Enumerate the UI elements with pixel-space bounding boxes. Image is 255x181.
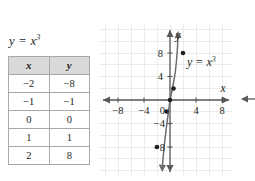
arrow-up-icon: [166, 30, 173, 37]
data-point: [181, 51, 186, 56]
svg-text:y = x3: y = x3: [186, 55, 216, 69]
cell-x: 2: [9, 147, 50, 165]
x-axis-label: x: [219, 82, 226, 94]
arrow-left-icon: [103, 96, 110, 103]
table-row: −2 −8: [9, 75, 90, 93]
cell-x: −1: [9, 93, 50, 111]
table-row: 0 0: [9, 111, 90, 129]
equation-label: y = x3: [9, 33, 41, 49]
cell-y: −1: [49, 93, 90, 111]
equation-exponent: 3: [36, 33, 40, 42]
x-tick-label: 8: [219, 105, 224, 116]
y-tick-label: 8: [158, 48, 163, 59]
arrow-left-icon: [241, 95, 248, 102]
coordinate-graph: −8 −4 4 8 8 4 −4 −8 0 x y y = x3: [99, 24, 233, 176]
table-row: −1 −1: [9, 93, 90, 111]
y-tick-label: −4: [154, 118, 166, 129]
cell-x: 0: [9, 111, 50, 129]
cell-y: −8: [49, 75, 90, 93]
x-tick-label: −8: [112, 105, 123, 116]
x-axis: [103, 96, 229, 103]
table-header-y: y: [49, 57, 90, 75]
data-point: [171, 86, 176, 91]
table-row: 2 8: [9, 147, 90, 165]
graph-svg: −8 −4 4 8 8 4 −4 −8 0 x y y = x3: [99, 24, 233, 176]
y-tick-label: 4: [158, 71, 164, 82]
arrow-down-icon: [166, 165, 173, 172]
value-table: x y −2 −8 −1 −1 0 0 1 1 2 8: [8, 56, 90, 165]
cell-y: 1: [49, 129, 90, 147]
x-tick-label: 4: [193, 105, 199, 116]
curve-label-exponent: 3: [211, 55, 216, 64]
arrow-right-icon: [222, 96, 229, 103]
table-row: 1 1: [9, 129, 90, 147]
curve-arrow-down-icon: [159, 165, 166, 172]
edge-arrow: [240, 92, 255, 106]
figure-root: y = x3 x y −2 −8 −1 −1 0 0 1 1: [0, 0, 255, 181]
origin-label: 0: [160, 105, 165, 116]
cell-x: 1: [9, 129, 50, 147]
curve-label: y = x3: [186, 55, 216, 69]
cell-y: 8: [49, 147, 90, 165]
cell-x: −2: [9, 75, 50, 93]
x-tick-label: −4: [138, 105, 150, 116]
curve-label-base: y = x: [186, 55, 212, 69]
y-axis-label: y: [174, 29, 181, 42]
equation-base: y = x: [9, 34, 36, 48]
data-point: [168, 98, 173, 103]
table-header-row: x y: [9, 57, 90, 75]
y-tick-label: −8: [154, 142, 165, 153]
table-header-x: x: [9, 57, 50, 75]
cell-y: 0: [49, 111, 90, 129]
